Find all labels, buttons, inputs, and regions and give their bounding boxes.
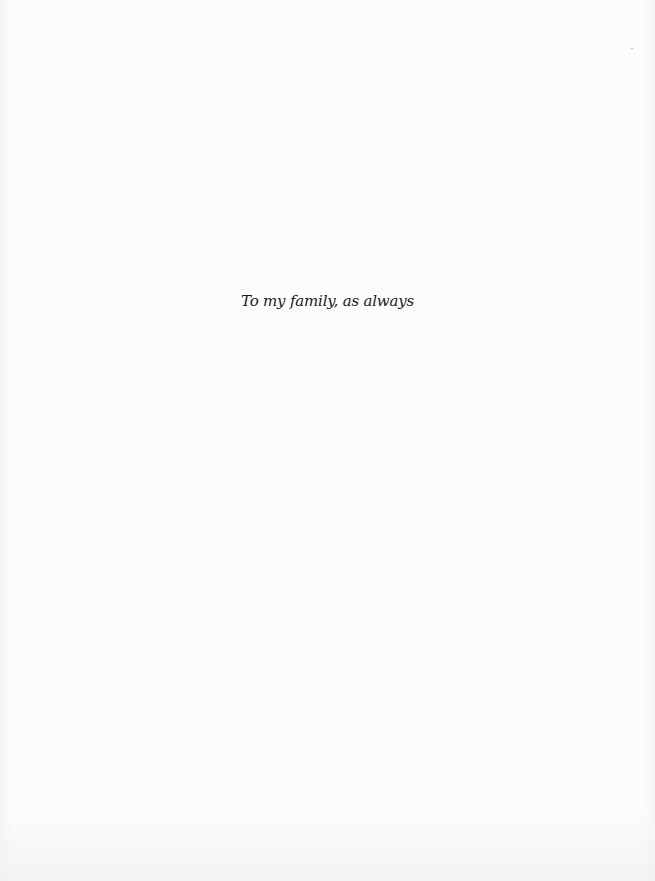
- dedication-text: To my family, as always: [0, 289, 655, 313]
- book-page: To my family, as always: [0, 0, 655, 881]
- scan-speck: [631, 48, 633, 49]
